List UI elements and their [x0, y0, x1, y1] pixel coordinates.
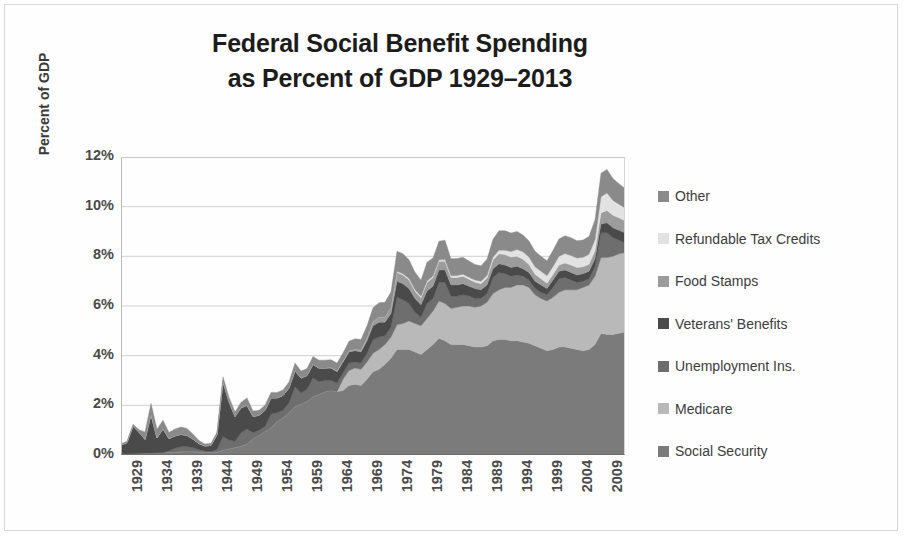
x-tick-label: 1999 [549, 460, 565, 530]
x-tick-label: 1969 [369, 460, 385, 530]
x-tick-label: 1954 [279, 460, 295, 530]
chart-title-line-1: Federal Social Benefit Spending [110, 26, 690, 61]
legend-swatch-icon [658, 446, 669, 457]
x-tick-label: 1979 [429, 460, 445, 530]
x-tick-label: 1959 [309, 460, 325, 530]
y-tick-label: 8% [68, 246, 114, 262]
y-tick-label: 4% [68, 346, 114, 362]
legend-swatch-icon [658, 403, 669, 414]
legend-item[interactable]: Medicare [658, 399, 898, 419]
chart-title: Federal Social Benefit Spending as Perce… [110, 26, 690, 96]
x-tick-label: 1949 [249, 460, 265, 530]
legend-swatch-icon [658, 361, 669, 372]
legend-item-label: Veterans' Benefits [675, 316, 787, 332]
x-tick-label: 1984 [459, 460, 475, 530]
x-tick-label: 1994 [519, 460, 535, 530]
x-tick-label: 1989 [489, 460, 505, 530]
y-tick-label: 6% [68, 296, 114, 312]
legend-item[interactable]: Veterans' Benefits [658, 314, 898, 334]
y-tick-label: 0% [68, 445, 114, 461]
chart-figure: Federal Social Benefit Spending as Perce… [0, 0, 904, 536]
legend-item[interactable]: Food Stamps [658, 271, 898, 291]
legend-item[interactable]: Other [658, 186, 898, 206]
plot-area [121, 157, 625, 455]
x-tick-label: 1934 [159, 460, 175, 530]
legend-item-label: Unemployment Ins. [675, 358, 796, 374]
x-tick-label: 1944 [219, 460, 235, 530]
y-axis-title: Percent of GDP [36, 24, 52, 184]
x-tick-label: 1929 [129, 460, 145, 530]
x-tick-label: 2009 [609, 460, 625, 530]
legend-swatch-icon [658, 233, 669, 244]
stacked-area-plot [121, 157, 625, 455]
legend-swatch-icon [658, 276, 669, 287]
legend-item-label: Other [675, 188, 710, 204]
y-tick-label: 12% [68, 147, 114, 163]
chart-title-line-2: as Percent of GDP 1929–2013 [110, 61, 690, 96]
legend-item-label: Social Security [675, 443, 768, 459]
y-axis-tick-labels: 12%10%8%6%4%2%0% [62, 157, 114, 455]
x-tick-label: 1974 [399, 460, 415, 530]
legend-item[interactable]: Refundable Tax Credits [658, 229, 898, 249]
y-tick-label: 10% [68, 197, 114, 213]
legend-swatch-icon [658, 318, 669, 329]
legend-item[interactable]: Unemployment Ins. [658, 356, 898, 376]
legend-item-label: Medicare [675, 401, 733, 417]
x-axis-tick-labels: 1929193419391944194919541959196419691974… [121, 460, 625, 530]
legend-item-label: Food Stamps [675, 273, 758, 289]
y-tick-label: 2% [68, 395, 114, 411]
x-tick-label: 1964 [339, 460, 355, 530]
x-tick-label: 1939 [189, 460, 205, 530]
chart-legend: OtherRefundable Tax CreditsFood StampsVe… [658, 186, 898, 484]
legend-item[interactable]: Social Security [658, 441, 898, 461]
legend-item-label: Refundable Tax Credits [675, 231, 820, 247]
x-tick-label: 2004 [579, 460, 595, 530]
area-series-group [121, 169, 625, 455]
legend-swatch-icon [658, 191, 669, 202]
